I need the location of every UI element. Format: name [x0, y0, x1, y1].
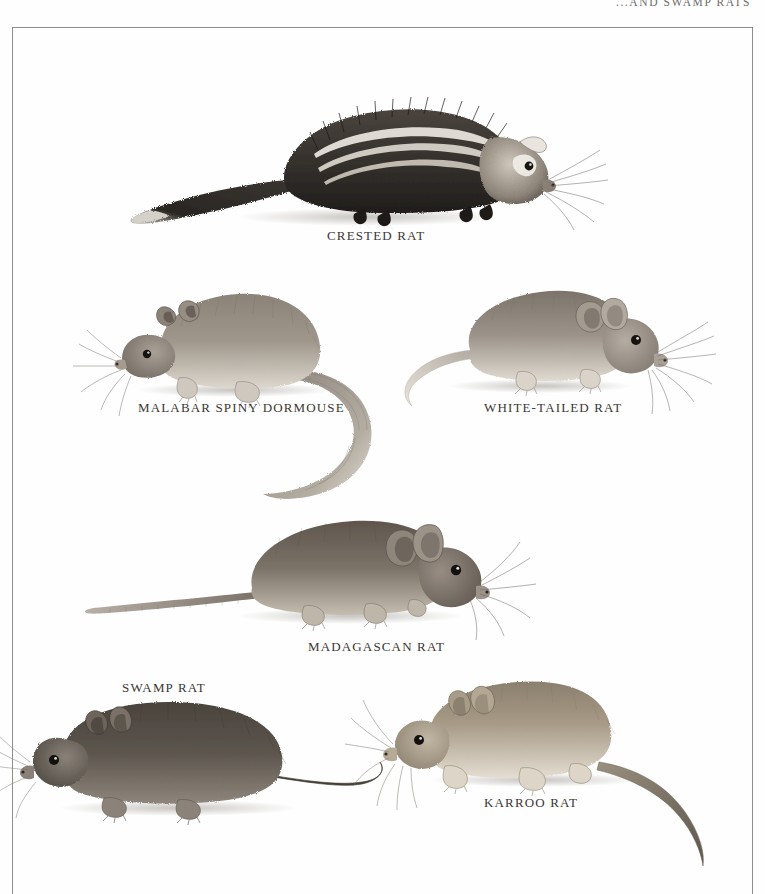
plate-page: ...AND SWAMP RATS	[0, 0, 765, 894]
illustration-swamp-rat	[28, 690, 408, 820]
illustration-karroo-rat	[375, 668, 765, 868]
caption-swamp-rat: SWAMP RAT	[122, 680, 206, 696]
running-head: ...AND SWAMP RATS	[0, 0, 765, 8]
illustration-madagascan-rat	[80, 508, 500, 633]
caption-karroo-rat: KARROO RAT	[484, 795, 578, 811]
caption-white-tailed-rat: WHITE-TAILED RAT	[484, 400, 622, 416]
illustration-crested-rat	[118, 80, 548, 230]
plate-frame-top-rule	[12, 27, 753, 28]
caption-crested-rat: CRESTED RAT	[327, 228, 425, 244]
plate-frame-left-rule	[12, 27, 13, 894]
illustration-white-tailed-rat	[400, 278, 660, 403]
caption-malabar-spiny-dormouse: MALABAR SPINY DORMOUSE	[138, 400, 345, 416]
caption-madagascan-rat: MADAGASCAN RAT	[308, 639, 445, 655]
illustration-malabar-spiny-dormouse	[105, 278, 415, 508]
